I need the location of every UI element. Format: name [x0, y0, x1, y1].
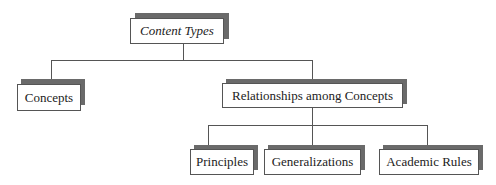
connector-to-concepts [51, 60, 52, 80]
node-label-principles: Principles [190, 149, 254, 175]
connector-to-generalizations [312, 125, 313, 146]
node-label-concepts: Concepts [17, 84, 81, 111]
connector-root-down [183, 43, 184, 60]
node-label-generalizations: Generalizations [264, 149, 361, 175]
connector-level1-bar [51, 60, 313, 61]
connector-level2-bar [208, 125, 428, 126]
node-label-relationships: Relationships among Concepts [222, 83, 403, 108]
connector-relationships-down [312, 108, 313, 126]
connector-to-principles [208, 125, 209, 146]
node-label-content-types: Content Types [130, 18, 224, 44]
node-label-academic-rules: Academic Rules [379, 149, 479, 175]
connector-to-academic-rules [427, 125, 428, 146]
